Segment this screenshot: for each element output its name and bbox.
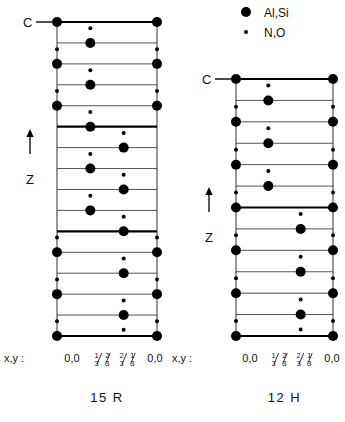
atom-n-o bbox=[122, 215, 126, 219]
atom-al-si bbox=[152, 331, 162, 341]
atom-n-o bbox=[299, 212, 303, 216]
atom-al-si bbox=[231, 117, 241, 127]
atom-al-si bbox=[52, 101, 62, 111]
atom-al-si bbox=[296, 310, 306, 320]
fraction-denominators: 3 3 bbox=[119, 359, 136, 368]
atom-n-o bbox=[299, 298, 303, 302]
legend-label-1: N,O bbox=[264, 26, 285, 40]
z-axis-label-12H: Z bbox=[205, 230, 213, 245]
z-axis-label-15R: Z bbox=[26, 172, 34, 187]
atom-al-si bbox=[119, 310, 129, 320]
atom-n-o bbox=[331, 233, 335, 237]
xy-axis-label-1: x,y : bbox=[172, 352, 192, 364]
c-axis-label-12H: C bbox=[202, 72, 211, 87]
atom-n-o bbox=[122, 257, 126, 261]
atom-n-o bbox=[55, 47, 59, 51]
atom-al-si bbox=[85, 80, 95, 90]
c-axis-label-15R: C bbox=[23, 15, 32, 30]
atom-n-o bbox=[234, 105, 238, 109]
atom-al-si bbox=[85, 164, 95, 174]
atom-n-o bbox=[155, 319, 159, 323]
atom-n-o bbox=[299, 328, 303, 332]
panel-15R bbox=[52, 17, 162, 341]
atom-n-o bbox=[266, 169, 270, 173]
atom-n-o bbox=[266, 83, 270, 87]
atom-al-si bbox=[328, 203, 338, 213]
polytype-stacking-figure: Al,SiN,O CZ15 RCZ12 Hx,y :x,y :0,01 23 3… bbox=[0, 0, 345, 422]
panels-container bbox=[52, 17, 338, 341]
atom-al-si bbox=[52, 247, 62, 257]
atom-n-o bbox=[234, 233, 238, 237]
atom-al-si bbox=[119, 268, 129, 278]
atom-al-si bbox=[263, 95, 273, 105]
fraction-denominators: 3 3 bbox=[296, 359, 313, 368]
atom-n-o bbox=[234, 191, 238, 195]
atom-n-o bbox=[55, 89, 59, 93]
atom-n-o bbox=[155, 47, 159, 51]
atom-n-o bbox=[234, 276, 238, 280]
xy-axis-label-0: x,y : bbox=[4, 352, 24, 364]
atom-al-si bbox=[119, 143, 129, 153]
atom-al-si bbox=[328, 331, 338, 341]
atom-n-o bbox=[234, 148, 238, 152]
atom-n-o bbox=[55, 236, 59, 240]
atom-n-o bbox=[299, 255, 303, 259]
panel-caption-12H: 12 H bbox=[268, 390, 301, 405]
atom-al-si bbox=[152, 59, 162, 69]
legend-large-dot-icon bbox=[241, 7, 251, 17]
atom-n-o bbox=[266, 126, 270, 130]
fraction-denominators: 3 3 bbox=[94, 359, 111, 368]
atom-n-o bbox=[331, 191, 335, 195]
atom-n-o bbox=[122, 173, 126, 177]
atom-al-si bbox=[231, 203, 241, 213]
atom-al-si bbox=[231, 160, 241, 170]
atom-al-si bbox=[52, 17, 62, 27]
coord-label-12H-0: 0,0 bbox=[242, 352, 257, 364]
z-arrow-head-12H bbox=[205, 187, 212, 195]
coord-label-15R-0: 0,0 bbox=[64, 352, 79, 364]
legend: Al,SiN,O bbox=[241, 6, 289, 40]
z-arrow-head-15R bbox=[26, 129, 33, 137]
atom-n-o bbox=[331, 105, 335, 109]
atom-n-o bbox=[122, 298, 126, 302]
fraction-denominators: 3 3 bbox=[271, 359, 288, 368]
atom-al-si bbox=[231, 288, 241, 298]
atom-n-o bbox=[234, 319, 238, 323]
atom-al-si bbox=[263, 181, 273, 191]
atom-n-o bbox=[88, 194, 92, 198]
atom-n-o bbox=[155, 236, 159, 240]
atom-al-si bbox=[328, 245, 338, 255]
atom-al-si bbox=[328, 74, 338, 84]
atom-n-o bbox=[88, 26, 92, 30]
atom-n-o bbox=[55, 319, 59, 323]
atom-al-si bbox=[85, 122, 95, 132]
atom-al-si bbox=[296, 224, 306, 234]
atom-n-o bbox=[155, 277, 159, 281]
panel-caption-15R: 15 R bbox=[90, 390, 123, 405]
atom-al-si bbox=[328, 160, 338, 170]
coord-fraction-12H-1: 1 23 3 bbox=[271, 351, 288, 368]
coord-label-12H-3: 0,0 bbox=[324, 352, 339, 364]
atom-n-o bbox=[88, 152, 92, 156]
legend-label-0: Al,Si bbox=[264, 6, 289, 20]
atom-n-o bbox=[331, 319, 335, 323]
atom-al-si bbox=[231, 331, 241, 341]
atom-n-o bbox=[122, 328, 126, 332]
atom-al-si bbox=[52, 331, 62, 341]
atom-al-si bbox=[119, 184, 129, 194]
atom-al-si bbox=[85, 205, 95, 215]
atom-n-o bbox=[88, 68, 92, 72]
coord-fraction-12H-2: 2 13 3 bbox=[296, 351, 313, 368]
atom-n-o bbox=[331, 148, 335, 152]
atom-al-si bbox=[328, 288, 338, 298]
atom-al-si bbox=[119, 226, 129, 236]
coord-fraction-15R-1: 1 23 3 bbox=[94, 351, 111, 368]
atom-al-si bbox=[231, 245, 241, 255]
atom-al-si bbox=[263, 138, 273, 148]
atom-n-o bbox=[55, 277, 59, 281]
atom-n-o bbox=[122, 131, 126, 135]
atom-al-si bbox=[296, 267, 306, 277]
atom-al-si bbox=[231, 74, 241, 84]
axis-labels-container: CZ15 RCZ12 Hx,y :x,y :0,01 23 32 13 30,0… bbox=[4, 15, 340, 406]
atom-al-si bbox=[85, 38, 95, 48]
